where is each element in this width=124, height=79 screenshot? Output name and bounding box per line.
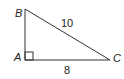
triangle-diagram: B A C 10 8 — [0, 0, 124, 79]
vertex-label-a: A — [13, 51, 21, 63]
side-label-ac: 8 — [64, 64, 70, 76]
side-label-bc: 10 — [61, 17, 73, 29]
right-angle-marker — [25, 52, 33, 60]
vertex-label-b: B — [15, 7, 22, 19]
vertex-label-c: C — [113, 52, 121, 64]
